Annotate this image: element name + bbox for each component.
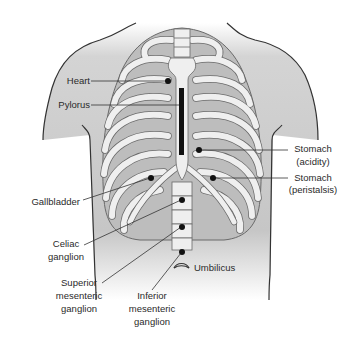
marker-celiac [179, 197, 185, 203]
marker-pylorus [179, 88, 184, 155]
label-gallbladder: Gallbladder [14, 196, 80, 208]
marker-superior-mesenteric [179, 224, 185, 230]
label-superior-mesenteric-2: mesenteric [48, 290, 110, 302]
marker-stomach-acidity [196, 147, 202, 153]
label-celiac-1: Celiac [44, 238, 88, 250]
label-inferior-mesenteric-3: ganglion [121, 316, 183, 328]
label-stomach-peristalsis-1: Stomach [282, 172, 344, 184]
label-superior-mesenteric-1: Superior [48, 277, 110, 289]
marker-heart [165, 78, 171, 84]
label-superior-mesenteric-3: ganglion [48, 303, 110, 315]
marker-stomach-peristalsis [210, 175, 216, 181]
label-heart: Heart [58, 75, 90, 87]
marker-gallbladder [148, 175, 154, 181]
label-stomach-acidity-2: (acidity) [288, 156, 338, 168]
marker-inferior-mesenteric [179, 249, 185, 255]
label-inferior-mesenteric-2: mesenteric [121, 303, 183, 315]
label-inferior-mesenteric-1: Inferior [121, 290, 183, 302]
label-celiac-2: ganglion [44, 251, 88, 263]
label-pylorus: Pylorus [50, 99, 90, 111]
label-stomach-acidity-1: Stomach [288, 143, 338, 155]
label-stomach-peristalsis-2: (peristalsis) [282, 184, 344, 196]
label-umbilicus: Umbilicus [194, 262, 235, 274]
